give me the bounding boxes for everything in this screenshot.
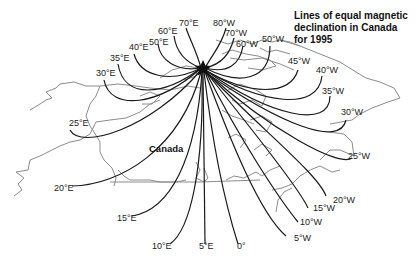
- label-15e: 15°E: [117, 214, 137, 223]
- label-60w: 60°W: [236, 40, 258, 49]
- label-20w: 20°W: [333, 196, 355, 205]
- title-line-3: for 1995: [294, 34, 414, 46]
- label-5w: 5°W: [294, 234, 311, 243]
- label-30e: 30°E: [96, 69, 116, 78]
- label-25w: 25°W: [348, 152, 370, 161]
- label-60e: 60°E: [158, 27, 178, 36]
- label-30w: 30°W: [341, 108, 363, 117]
- label-10e: 10°E: [152, 242, 172, 251]
- label-45w: 45°W: [288, 57, 310, 66]
- label-35w: 35°W: [322, 87, 344, 96]
- label-50w: 50°W: [262, 35, 284, 44]
- label-40e: 40°E: [129, 43, 149, 52]
- label-40w: 40°W: [316, 66, 338, 75]
- map-title: Lines of equal magnetic declination in C…: [294, 10, 414, 46]
- label-25e: 25°E: [69, 119, 89, 128]
- label-80w: 80°W: [213, 19, 235, 28]
- label-20e: 20°E: [54, 184, 74, 193]
- country-label: Canada: [149, 143, 183, 154]
- label-70w: 70°W: [225, 29, 247, 38]
- label-70e: 70°E: [179, 19, 199, 28]
- label-0: 0°: [237, 242, 246, 251]
- label-35e: 35°E: [110, 54, 130, 63]
- label-15w: 15°W: [313, 204, 335, 213]
- title-line-2: declination in Canada: [294, 22, 414, 34]
- label-10w: 10°W: [300, 218, 322, 227]
- label-50e: 50°E: [149, 38, 169, 47]
- label-5e: 5°E: [199, 242, 214, 251]
- title-line-1: Lines of equal magnetic: [294, 10, 414, 22]
